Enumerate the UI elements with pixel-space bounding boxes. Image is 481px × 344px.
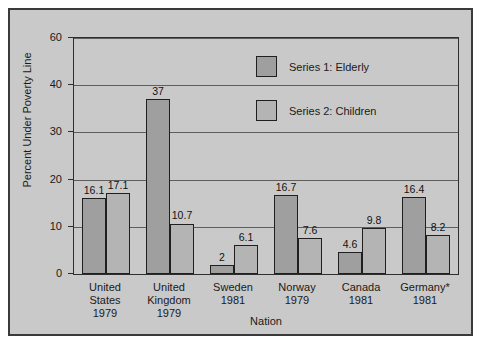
gridline [74, 38, 458, 39]
y-axis-title: Percent Under Poverty Line [21, 40, 33, 200]
legend-entry-series2: Series 2: Children [256, 100, 376, 121]
y-axis-tick-label: 10 [50, 220, 62, 231]
category-label-line: Germany* [380, 281, 470, 294]
legend-label-series2: Series 2: Children [289, 105, 376, 117]
legend-swatch-series2 [256, 100, 277, 121]
bar [298, 238, 322, 274]
bar [362, 228, 386, 274]
y-axis-tick-label: 20 [50, 173, 62, 184]
chart-figure: Percent Under Poverty Line Nation 010203… [0, 0, 481, 344]
category-label-line: 1981 [380, 294, 470, 307]
chart-outer-frame: Percent Under Poverty Line Nation 010203… [8, 8, 473, 336]
bar-value-label: 37 [140, 86, 176, 97]
bar [402, 197, 426, 274]
gridline [74, 227, 458, 228]
bar [210, 265, 234, 274]
legend-swatch-series1 [256, 56, 277, 77]
bar [106, 193, 130, 274]
bar [146, 99, 170, 274]
bar-value-label: 4.6 [332, 239, 368, 250]
legend-entry-series1: Series 1: Elderly [256, 56, 369, 77]
category-label-line: 1979 [124, 307, 214, 320]
gridline [74, 85, 458, 86]
bar-value-label: 16.4 [396, 184, 432, 195]
bar [426, 235, 450, 274]
bar [170, 224, 194, 275]
y-axis-tick-label: 0 [56, 268, 62, 279]
y-axis-tick-label: 30 [50, 126, 62, 137]
bar-value-label: 16.7 [268, 182, 304, 193]
bar-value-label: 2 [204, 252, 240, 263]
bar-value-label: 10.7 [164, 210, 200, 221]
x-axis-category-label: Germany*1981 [380, 281, 470, 307]
bar-value-label: 8.2 [420, 222, 456, 233]
plot-area: 16.117.13710.726.116.77.64.69.816.48.2 S… [73, 37, 459, 275]
y-axis-tick-label: 40 [50, 79, 62, 90]
bar-value-label: 17.1 [100, 180, 136, 191]
legend-label-series1: Series 1: Elderly [289, 61, 369, 73]
bar-value-label: 7.6 [292, 225, 328, 236]
y-axis-tick-label: 60 [50, 32, 62, 43]
bar [82, 198, 106, 274]
bar [338, 252, 362, 274]
bar-value-label: 6.1 [228, 232, 264, 243]
bar-value-label: 9.8 [356, 215, 392, 226]
gridline [74, 132, 458, 133]
